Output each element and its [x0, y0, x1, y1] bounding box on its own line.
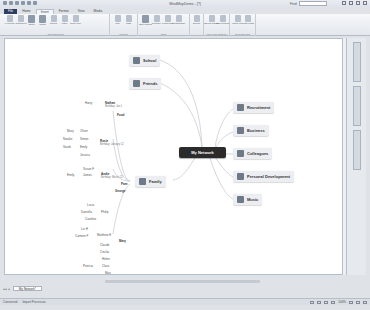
- horizontal-scrollbar[interactable]: [105, 280, 260, 283]
- topic-business[interactable]: Business: [233, 125, 269, 136]
- attachment-button[interactable]: Attachment: [15, 15, 26, 26]
- subtopic[interactable]: Caroline: [85, 217, 96, 221]
- status-bar: Connected Import Processes 100%: [0, 298, 370, 305]
- ribbon: Hyperlink Attachment Notes Image Callout…: [0, 14, 370, 36]
- tab-nav-left[interactable]: ◂◂ ◂: [3, 287, 10, 291]
- label-icon: [62, 15, 68, 22]
- ribbon-group-tools: Spell Check Replace Properties Relations…: [138, 14, 190, 36]
- subtopic[interactable]: Claude: [100, 243, 110, 247]
- subtopic[interactable]: Clara: [102, 264, 109, 268]
- subtopic[interactable]: Mary: [67, 129, 74, 133]
- subtopic[interactable]: James: [83, 173, 92, 177]
- subtopic[interactable]: Lucia: [87, 203, 94, 207]
- group-label-tools: Tools: [138, 33, 189, 36]
- topic-colleagues[interactable]: Colleagues: [233, 148, 272, 159]
- music-icon: [237, 196, 244, 203]
- topic-icon-button[interactable]: Topic Icon: [70, 15, 81, 26]
- undo-icon[interactable]: [15, 1, 19, 5]
- document-tabs: ◂◂ ◂ My Network*: [0, 285, 370, 292]
- zoom-slider[interactable]: [356, 301, 360, 304]
- view-outline-icon[interactable]: [317, 301, 321, 304]
- subtopic[interactable]: Food: [117, 113, 124, 117]
- view-gantt-icon[interactable]: [324, 301, 328, 304]
- subtopic-note: Birthday: Jan 1: [105, 105, 122, 108]
- map-parts-button[interactable]: Map Parts: [243, 15, 254, 26]
- subtopic[interactable]: Liz H: [81, 227, 88, 231]
- subtopic[interactable]: Natalie: [63, 137, 72, 141]
- tags-icon: [126, 15, 132, 22]
- subtopic[interactable]: Carmen F: [75, 234, 88, 238]
- window-title: MindMapDemo - [?]: [169, 2, 201, 6]
- doc-tab-my-network[interactable]: My Network*: [13, 286, 42, 291]
- notes-icon: [28, 15, 35, 23]
- close-button[interactable]: [363, 1, 367, 5]
- maximize-button[interactable]: [356, 1, 360, 5]
- side-tab-1[interactable]: [353, 42, 361, 82]
- topic-friends[interactable]: Friends: [129, 78, 161, 89]
- map-connectors: [5, 39, 343, 275]
- topic-recruitment[interactable]: Recruitment: [233, 102, 274, 113]
- subtopic[interactable]: Helen: [102, 257, 110, 261]
- topic-family[interactable]: Family: [135, 176, 166, 187]
- print-icon[interactable]: [27, 1, 31, 5]
- subtopic[interactable]: Oliver: [80, 129, 88, 133]
- subtopic[interactable]: Emily: [67, 173, 74, 177]
- subtopic[interactable]: George: [115, 189, 126, 193]
- subtopic[interactable]: Susan F: [83, 167, 94, 171]
- subtopic[interactable]: Pam: [121, 182, 127, 186]
- image-button[interactable]: Image: [37, 15, 48, 27]
- hyperlink-button[interactable]: Hyperlink: [4, 15, 15, 26]
- subtopic[interactable]: Philip: [101, 210, 108, 214]
- spell-check-button[interactable]: Spell Check: [140, 15, 151, 27]
- central-topic[interactable]: My Network: [179, 147, 226, 158]
- topic-music[interactable]: Music: [233, 194, 262, 205]
- relationship-button[interactable]: Relationship: [173, 15, 184, 26]
- marker-icon: [115, 15, 121, 22]
- group-label-markers: Markers: [110, 33, 137, 36]
- zoom-out-button[interactable]: [349, 301, 353, 304]
- insert-link-button[interactable]: Insert Link: [232, 15, 243, 26]
- subtopic[interactable]: Cecilia: [100, 250, 109, 254]
- filter-icon[interactable]: [331, 301, 335, 304]
- subtopic[interactable]: Max: [105, 271, 111, 275]
- topic-icon-icon: [73, 15, 79, 22]
- subtopic[interactable]: Harry: [85, 101, 92, 105]
- help-icon[interactable]: [342, 1, 346, 5]
- insert-range-button[interactable]: Insert Range: [217, 15, 228, 26]
- topic-school[interactable]: School: [129, 55, 160, 66]
- subtopic[interactable]: Matthew E: [97, 233, 111, 237]
- label-button[interactable]: Label: [59, 15, 70, 26]
- redo-icon[interactable]: [21, 1, 25, 5]
- properties-icon: [165, 15, 171, 22]
- colleagues-icon: [237, 150, 244, 157]
- subtopic[interactable]: Mary: [119, 239, 126, 243]
- view-map-icon[interactable]: [310, 301, 314, 304]
- notes-button[interactable]: Notes: [26, 15, 37, 27]
- customize-qat-icon[interactable]: [33, 1, 37, 5]
- replace-button[interactable]: Replace: [151, 15, 162, 26]
- find-label: Find: [290, 2, 297, 6]
- side-tab-2[interactable]: [353, 86, 361, 126]
- subtopic[interactable]: Sarah: [63, 145, 71, 149]
- business-icon: [237, 127, 244, 134]
- subtopic[interactable]: Patricia: [83, 264, 93, 268]
- zoom-in-button[interactable]: [363, 301, 367, 304]
- find-input[interactable]: [299, 1, 327, 6]
- side-tab-3[interactable]: [353, 130, 361, 170]
- image-icon: [39, 15, 46, 23]
- tags-button[interactable]: Tags: [123, 15, 134, 26]
- callout-button[interactable]: Callout: [48, 15, 59, 26]
- save-icon[interactable]: [9, 1, 13, 5]
- subtopic[interactable]: Daniella: [81, 210, 92, 214]
- ribbon-group-topic-elements: Hyperlink Attachment Notes Image Callout…: [2, 14, 110, 36]
- export-button[interactable]: Export: [192, 15, 201, 26]
- subtopic[interactable]: Simon: [80, 137, 89, 141]
- icon-button[interactable]: Icon: [112, 15, 123, 26]
- map-canvas[interactable]: School Friends Recruitment Business Coll…: [4, 38, 343, 275]
- subtopic[interactable]: Emily: [80, 145, 87, 149]
- topic-personal-development[interactable]: Personal Development: [233, 171, 294, 182]
- subtopic[interactable]: Jessica: [80, 153, 90, 157]
- minimize-button[interactable]: [349, 1, 353, 5]
- status-import-processes[interactable]: Import Processes: [23, 300, 46, 304]
- replace-icon: [154, 15, 160, 22]
